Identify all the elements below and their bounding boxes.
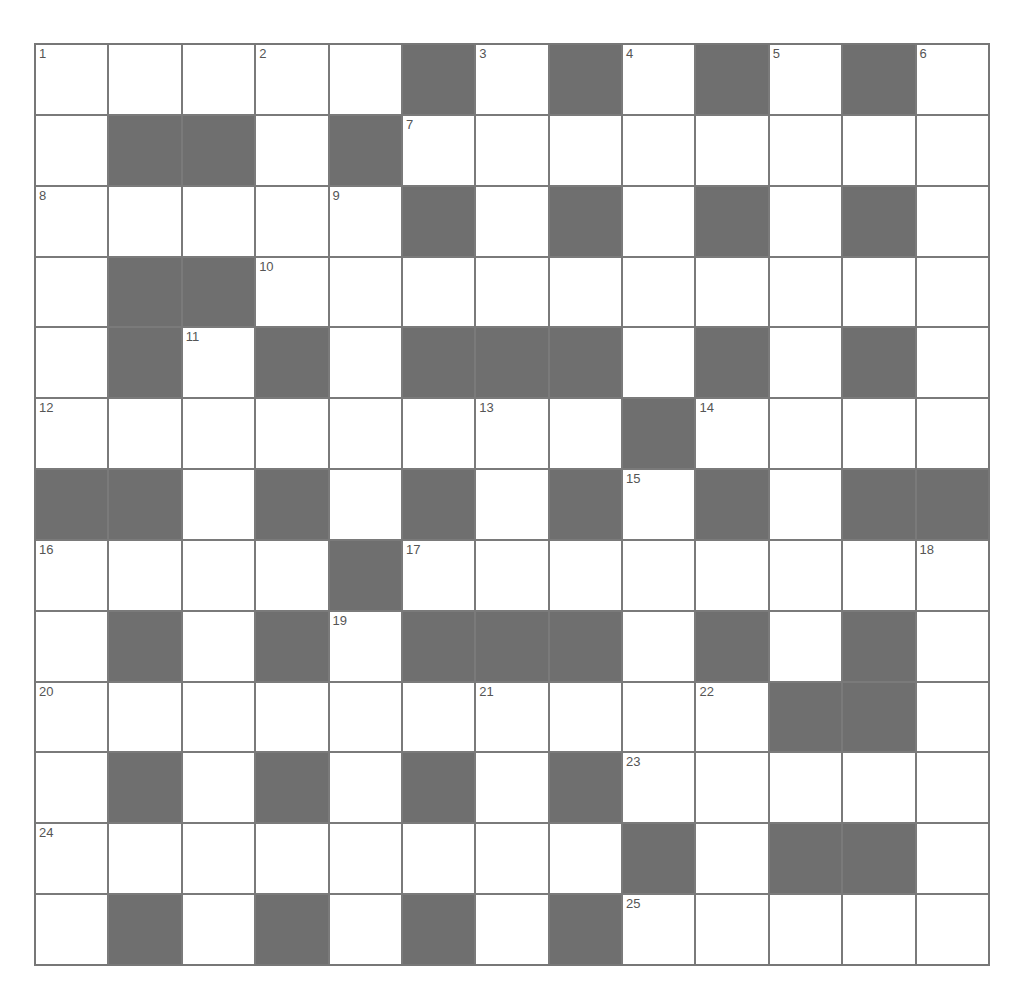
crossword-cell[interactable] xyxy=(183,187,254,256)
crossword-cell[interactable]: 23 xyxy=(623,753,694,822)
crossword-cell[interactable] xyxy=(550,541,621,610)
crossword-cell[interactable] xyxy=(696,116,767,185)
crossword-cell[interactable]: 20 xyxy=(36,683,107,752)
crossword-cell[interactable] xyxy=(550,683,621,752)
crossword-cell[interactable] xyxy=(843,399,914,468)
crossword-cell[interactable]: 7 xyxy=(403,116,474,185)
crossword-cell[interactable] xyxy=(696,258,767,327)
crossword-cell[interactable]: 14 xyxy=(696,399,767,468)
crossword-cell[interactable]: 18 xyxy=(917,541,988,610)
crossword-cell[interactable] xyxy=(623,116,694,185)
crossword-cell[interactable] xyxy=(550,824,621,893)
crossword-cell[interactable] xyxy=(183,753,254,822)
crossword-cell[interactable]: 22 xyxy=(696,683,767,752)
crossword-cell[interactable] xyxy=(403,258,474,327)
crossword-cell[interactable] xyxy=(109,399,180,468)
crossword-cell[interactable] xyxy=(770,258,841,327)
crossword-cell[interactable] xyxy=(476,470,547,539)
crossword-cell[interactable]: 13 xyxy=(476,399,547,468)
crossword-cell[interactable] xyxy=(917,328,988,397)
crossword-cell[interactable] xyxy=(476,824,547,893)
crossword-cell[interactable] xyxy=(256,541,327,610)
crossword-cell[interactable]: 10 xyxy=(256,258,327,327)
crossword-cell[interactable] xyxy=(256,187,327,256)
crossword-cell[interactable] xyxy=(330,824,401,893)
crossword-cell[interactable]: 3 xyxy=(476,45,547,114)
crossword-cell[interactable] xyxy=(330,683,401,752)
crossword-cell[interactable] xyxy=(183,824,254,893)
crossword-cell[interactable] xyxy=(770,753,841,822)
crossword-cell[interactable] xyxy=(109,683,180,752)
crossword-cell[interactable] xyxy=(36,328,107,397)
crossword-cell[interactable]: 9 xyxy=(330,187,401,256)
crossword-cell[interactable] xyxy=(917,612,988,681)
crossword-cell[interactable] xyxy=(256,116,327,185)
crossword-cell[interactable] xyxy=(403,683,474,752)
crossword-cell[interactable] xyxy=(476,187,547,256)
crossword-cell[interactable] xyxy=(770,470,841,539)
crossword-cell[interactable] xyxy=(843,258,914,327)
crossword-cell[interactable] xyxy=(770,399,841,468)
crossword-cell[interactable] xyxy=(917,187,988,256)
crossword-cell[interactable]: 6 xyxy=(917,45,988,114)
crossword-cell[interactable] xyxy=(843,753,914,822)
crossword-cell[interactable] xyxy=(36,258,107,327)
crossword-cell[interactable] xyxy=(917,258,988,327)
crossword-cell[interactable]: 19 xyxy=(330,612,401,681)
crossword-cell[interactable] xyxy=(183,470,254,539)
crossword-cell[interactable] xyxy=(696,541,767,610)
crossword-cell[interactable] xyxy=(550,116,621,185)
crossword-cell[interactable]: 24 xyxy=(36,824,107,893)
crossword-cell[interactable] xyxy=(550,258,621,327)
crossword-cell[interactable]: 12 xyxy=(36,399,107,468)
crossword-cell[interactable] xyxy=(36,753,107,822)
crossword-cell[interactable]: 15 xyxy=(623,470,694,539)
crossword-cell[interactable] xyxy=(843,116,914,185)
crossword-cell[interactable]: 11 xyxy=(183,328,254,397)
crossword-cell[interactable]: 2 xyxy=(256,45,327,114)
crossword-cell[interactable] xyxy=(330,328,401,397)
crossword-cell[interactable] xyxy=(109,824,180,893)
crossword-cell[interactable] xyxy=(917,824,988,893)
crossword-cell[interactable] xyxy=(917,399,988,468)
crossword-cell[interactable] xyxy=(183,683,254,752)
crossword-cell[interactable] xyxy=(917,753,988,822)
crossword-cell[interactable] xyxy=(696,895,767,964)
crossword-cell[interactable] xyxy=(770,116,841,185)
crossword-cell[interactable]: 4 xyxy=(623,45,694,114)
crossword-cell[interactable] xyxy=(476,258,547,327)
crossword-cell[interactable] xyxy=(696,753,767,822)
crossword-cell[interactable] xyxy=(476,116,547,185)
crossword-cell[interactable] xyxy=(770,328,841,397)
crossword-cell[interactable] xyxy=(623,612,694,681)
crossword-cell[interactable] xyxy=(183,399,254,468)
crossword-cell[interactable] xyxy=(476,541,547,610)
crossword-cell[interactable] xyxy=(403,399,474,468)
crossword-cell[interactable] xyxy=(623,683,694,752)
crossword-cell[interactable]: 25 xyxy=(623,895,694,964)
crossword-cell[interactable] xyxy=(770,187,841,256)
crossword-cell[interactable]: 1 xyxy=(36,45,107,114)
crossword-cell[interactable] xyxy=(917,895,988,964)
crossword-cell[interactable] xyxy=(183,612,254,681)
crossword-cell[interactable] xyxy=(476,753,547,822)
crossword-cell[interactable] xyxy=(183,541,254,610)
crossword-cell[interactable] xyxy=(256,399,327,468)
crossword-cell[interactable] xyxy=(843,895,914,964)
crossword-cell[interactable]: 16 xyxy=(36,541,107,610)
crossword-cell[interactable] xyxy=(330,258,401,327)
crossword-cell[interactable] xyxy=(36,895,107,964)
crossword-cell[interactable] xyxy=(623,328,694,397)
crossword-cell[interactable] xyxy=(330,45,401,114)
crossword-cell[interactable] xyxy=(109,45,180,114)
crossword-cell[interactable] xyxy=(36,612,107,681)
crossword-cell[interactable] xyxy=(917,683,988,752)
crossword-cell[interactable]: 17 xyxy=(403,541,474,610)
crossword-cell[interactable] xyxy=(770,541,841,610)
crossword-cell[interactable] xyxy=(183,895,254,964)
crossword-cell[interactable] xyxy=(770,612,841,681)
crossword-cell[interactable] xyxy=(109,541,180,610)
crossword-cell[interactable] xyxy=(330,753,401,822)
crossword-cell[interactable] xyxy=(623,541,694,610)
crossword-cell[interactable] xyxy=(696,824,767,893)
